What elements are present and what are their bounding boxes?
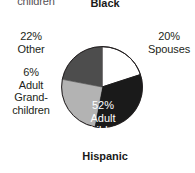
slice-percent-spouses: 20% bbox=[158, 30, 180, 42]
slice-name-adult-grandchildren-line2: Grand- bbox=[14, 91, 48, 103]
pie-chart-figure: children Black 22% Other 6% Adult Grand-… bbox=[0, 0, 195, 173]
slice-name-other: Other bbox=[17, 43, 44, 55]
slice-percent-adult-grandchildren: 6% bbox=[23, 66, 39, 78]
slice-percent-other: 22% bbox=[20, 30, 42, 42]
chart-title-black: Black bbox=[71, 0, 139, 10]
slice-name-adult-grandchildren-line3: children bbox=[12, 104, 50, 116]
slice-name-adult-grandchildren-line1: Adult bbox=[19, 79, 44, 91]
slice-name-spouses: Spouses bbox=[148, 43, 190, 55]
slice-percent-adult-children: 52% bbox=[92, 99, 114, 111]
slice-label-adult-children: 52% Adult Children bbox=[66, 99, 140, 137]
slice-label-other: 22% Other bbox=[0, 30, 62, 55]
slice-label-adult-grandchildren: 6% Adult Grand- children bbox=[0, 66, 62, 116]
chart-title-hispanic: Hispanic bbox=[70, 150, 140, 163]
slice-name-adult-children-line2: Children bbox=[83, 124, 124, 136]
clipped-top-label: children bbox=[0, 0, 72, 8]
slice-name-adult-children-line1: Adult bbox=[90, 112, 115, 124]
slice-label-spouses: 20% Spouses bbox=[143, 30, 195, 55]
